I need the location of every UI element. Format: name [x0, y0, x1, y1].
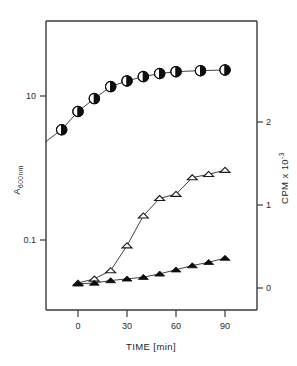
marker-open-triangle [122, 243, 132, 248]
x-axis-title: TIME [min] [126, 341, 176, 352]
right-axis-title-main: CPM x 10 [279, 159, 290, 204]
marker-filled-triangle [220, 255, 230, 260]
marker-open-triangle [220, 167, 230, 172]
series-half-filled-circle [45, 65, 230, 142]
marker-half-filled-circle [89, 93, 99, 103]
chart-figure: 10 0.1 A600nm 2 1 0 CPM x 10-3 0 30 60 9… [0, 0, 297, 366]
growth-cpm-timecourse-plot: 10 0.1 A600nm 2 1 0 CPM x 10-3 0 30 60 9… [0, 0, 297, 366]
marker-half-filled-circle [105, 81, 115, 91]
right-ticklabel-1: 1 [266, 200, 271, 210]
marker-half-filled-circle [195, 65, 205, 75]
x-ticklabel-90: 90 [220, 321, 230, 331]
marker-half-filled-circle [220, 65, 230, 75]
series-line [45, 70, 225, 142]
marker-open-triangle [171, 191, 181, 196]
marker-half-filled-circle [73, 106, 83, 116]
left-axis-ticks [40, 96, 46, 240]
x-ticklabel-60: 60 [171, 321, 181, 331]
left-axis-title-group: A600nm [11, 165, 24, 195]
left-axis-title-sub: 600nm [17, 165, 24, 188]
right-axis-title-sup: -3 [278, 152, 285, 159]
series-line [78, 170, 225, 283]
right-axis-title: CPM x 10-3 [278, 152, 290, 204]
marker-filled-triangle [204, 259, 214, 264]
marker-open-triangle [138, 213, 148, 218]
left-ticklabel-10: 10 [26, 91, 36, 101]
x-ticklabel-30: 30 [122, 321, 132, 331]
right-axis-title-group: CPM x 10-3 [278, 152, 290, 204]
series-open-triangle [73, 167, 230, 285]
left-axis-title: A600nm [11, 165, 24, 195]
right-axis-ticks [257, 122, 263, 288]
marker-open-triangle [204, 171, 214, 176]
marker-filled-triangle [171, 267, 181, 272]
x-ticklabel-0: 0 [75, 321, 80, 331]
series-line [78, 258, 225, 284]
marker-half-filled-circle [138, 71, 148, 81]
marker-half-filled-circle [122, 76, 132, 86]
left-ticklabel-0.1: 0.1 [23, 235, 36, 245]
marker-open-triangle [155, 196, 165, 201]
right-ticklabel-2: 2 [266, 117, 271, 127]
marker-open-triangle [106, 268, 116, 273]
marker-half-filled-circle [56, 125, 66, 135]
marker-half-filled-circle [154, 68, 164, 78]
marker-filled-triangle [155, 271, 165, 276]
right-ticklabel-0: 0 [266, 283, 271, 293]
marker-half-filled-circle [171, 66, 181, 76]
x-axis-ticks [78, 310, 225, 317]
